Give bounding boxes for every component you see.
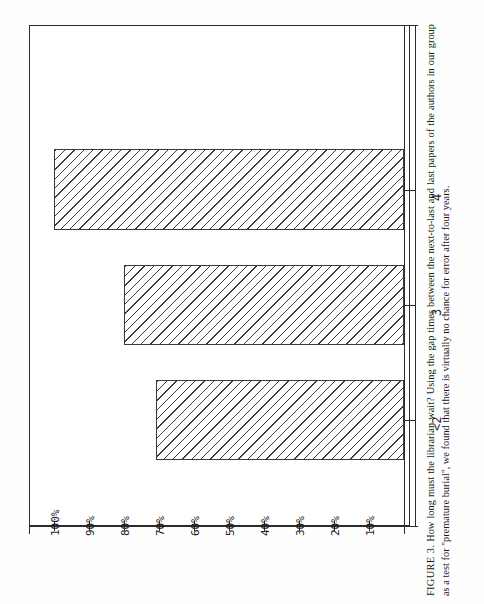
category-axis-line	[404, 25, 405, 526]
value-axis-end-cap	[29, 519, 30, 534]
bar	[54, 149, 404, 230]
figure-caption-label: FIGURE 3.	[425, 545, 436, 596]
value-tick-label: 90%	[84, 516, 97, 536]
figure-rotated-block: 10%20%30%40%50%60%70%80%90%100% <234	[0, 0, 484, 604]
category-tick	[404, 305, 416, 306]
value-tick-label: 30%	[294, 516, 307, 536]
value-tick-label: 100%	[49, 510, 62, 537]
bar	[124, 265, 404, 346]
category-axis-outer-line	[415, 25, 416, 526]
figure-caption: FIGURE 3. How long must the librarian wa…	[424, 24, 453, 596]
scanned-page: 10%20%30%40%50%60%70%80%90%100% <234 FIG…	[0, 0, 484, 604]
category-tick	[404, 190, 416, 191]
figure-caption-text: How long must the librarian wait? Using …	[425, 24, 451, 596]
value-tick-label: 40%	[259, 516, 272, 536]
category-tick	[404, 420, 416, 421]
value-tick-label: 50%	[224, 516, 237, 536]
value-tick-label: 80%	[119, 516, 132, 536]
figure-caption-wrapper: FIGURE 3. How long must the librarian wa…	[424, 18, 453, 596]
value-tick-label: 70%	[154, 516, 167, 536]
value-axis-end-cap	[404, 519, 405, 534]
value-tick-label: 60%	[189, 516, 202, 536]
bar	[156, 380, 405, 461]
value-tick-label: 20%	[329, 516, 342, 536]
value-tick-label: 10%	[364, 516, 377, 536]
category-axis-end-cap	[404, 25, 418, 26]
